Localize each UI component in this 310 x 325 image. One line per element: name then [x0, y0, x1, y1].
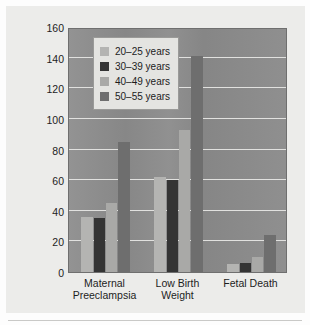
legend-item: 40–49 years: [100, 74, 170, 88]
x-tick-label: Low Birth Weight: [141, 277, 214, 301]
figure-bottom-rule: [8, 320, 302, 321]
plot-area: 20–25 years30–39 years40–49 years50–55 y…: [68, 28, 287, 273]
gridline: [69, 118, 286, 119]
figure-margin-left: [0, 0, 6, 325]
bar: [118, 142, 130, 272]
legend-label: 30–39 years: [115, 61, 170, 72]
figure-margin-bottom: [0, 313, 310, 325]
bar: [240, 263, 252, 272]
legend-swatch-icon: [100, 77, 109, 86]
bar: [106, 203, 118, 272]
x-axis-tick-labels: Maternal PreeclampsiaLow Birth WeightFet…: [68, 277, 287, 307]
x-tick-label: Fetal Death: [214, 277, 287, 289]
x-tick-label: Maternal Preeclampsia: [68, 277, 141, 301]
figure-margin-right: [305, 0, 310, 325]
chart-figure: Rate per 1,000 Deliveries 02040608010012…: [0, 0, 310, 325]
y-tick-label: 40: [28, 206, 64, 217]
y-tick-label: 0: [28, 268, 64, 279]
legend-label: 50–55 years: [115, 91, 170, 102]
figure-margin-top: [0, 0, 310, 6]
legend-label: 40–49 years: [115, 76, 170, 87]
legend-label: 20–25 years: [115, 46, 170, 57]
y-tick-label: 60: [28, 176, 64, 187]
gridline: [69, 149, 286, 150]
bar: [191, 56, 203, 272]
y-axis-tick-labels: 020406080100120140160: [28, 22, 64, 274]
bar: [154, 177, 166, 272]
chart-legend: 20–25 years30–39 years40–49 years50–55 y…: [93, 37, 179, 110]
legend-swatch-icon: [100, 62, 109, 71]
legend-swatch-icon: [100, 47, 109, 56]
bar: [81, 217, 93, 272]
y-tick-label: 20: [28, 237, 64, 248]
bar: [179, 130, 191, 272]
y-tick-label: 80: [28, 145, 64, 156]
bar: [94, 218, 106, 272]
bar: [167, 180, 179, 272]
y-tick-label: 120: [28, 84, 64, 95]
y-tick-label: 160: [28, 23, 64, 34]
bar: [252, 257, 264, 272]
bar: [264, 235, 276, 272]
y-tick-label: 100: [28, 114, 64, 125]
bar: [227, 264, 239, 272]
y-tick-label: 140: [28, 53, 64, 64]
legend-item: 30–39 years: [100, 59, 170, 73]
legend-swatch-icon: [100, 92, 109, 101]
legend-item: 50–55 years: [100, 89, 170, 103]
legend-item: 20–25 years: [100, 44, 170, 58]
